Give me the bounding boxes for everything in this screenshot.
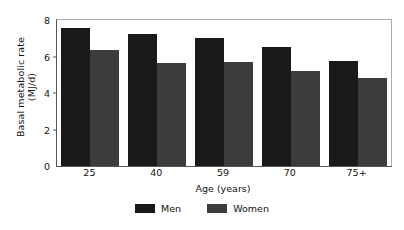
bar-groups: [57, 20, 391, 166]
legend-label: Men: [161, 203, 181, 214]
y-axis-title-line2: (MJ/d): [27, 73, 38, 101]
x-axis-tick-labels: 2540597075+: [56, 167, 390, 183]
bar-women-25: [90, 50, 119, 166]
bar-chart-figure: Basal metabolic rate (MJ/d) 02468 254059…: [0, 0, 404, 230]
y-axis-tick-label: 4: [44, 88, 50, 99]
x-axis-title: Age (years): [56, 183, 390, 194]
x-axis-tick-label: 70: [256, 167, 323, 178]
x-axis-tick-label: 75+: [323, 167, 390, 178]
bar-men-25: [61, 28, 90, 166]
bar-men-40: [128, 34, 157, 166]
y-axis-tick-label: 2: [44, 124, 50, 135]
x-axis-tick-label: 59: [190, 167, 257, 178]
legend-label: Women: [233, 203, 269, 214]
y-axis-tick-label: 0: [44, 161, 50, 172]
y-axis-tick-label: 8: [44, 15, 50, 26]
bar-women-75plus: [358, 78, 387, 167]
bar-women-59: [224, 62, 253, 166]
bar-group: [329, 20, 387, 166]
legend-item-men: Men: [135, 203, 181, 214]
chart-legend: MenWomen: [0, 203, 404, 214]
x-axis-tick-label: 40: [123, 167, 190, 178]
bar-group: [128, 20, 186, 166]
plot-area: 02468: [56, 19, 392, 167]
x-axis-tick-label: 25: [56, 167, 123, 178]
bar-women-70: [291, 71, 320, 166]
bar-men-70: [262, 47, 291, 166]
legend-item-women: Women: [207, 203, 269, 214]
bar-group: [195, 20, 253, 166]
bar-group: [262, 20, 320, 166]
bar-women-40: [157, 63, 186, 166]
bar-men-75plus: [329, 61, 358, 166]
bar-group: [61, 20, 119, 166]
bar-men-59: [195, 38, 224, 166]
y-axis-title: Basal metabolic rate (MJ/d): [6, 2, 48, 172]
legend-swatch-women: [207, 204, 227, 213]
y-axis-tick-label: 6: [44, 51, 50, 62]
legend-swatch-men: [135, 204, 155, 213]
y-axis-title-line1: Basal metabolic rate: [16, 37, 27, 137]
